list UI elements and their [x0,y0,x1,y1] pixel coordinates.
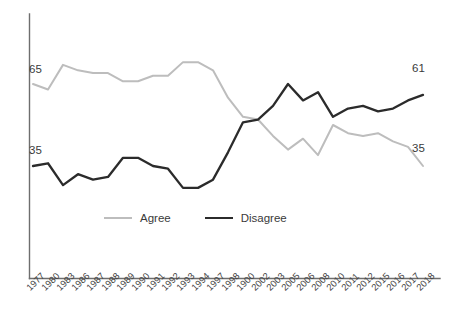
disagree-end-value-label: 61 [412,62,425,74]
disagree-start-value-label: 35 [29,144,42,156]
legend-item-agree[interactable]: Agree [104,212,171,224]
legend-label-disagree: Disagree [241,212,287,224]
chart-legend: Agree Disagree [104,212,287,224]
legend-swatch-agree [104,217,132,219]
legend-label-agree: Agree [140,212,171,224]
line-chart: 65 35 61 35 Agree Disagree 1977198019831… [0,0,451,324]
legend-item-disagree[interactable]: Disagree [205,212,287,224]
legend-swatch-disagree [205,217,233,219]
agree-start-value-label: 65 [29,63,42,75]
x-axis-tick-labels: 1977198019831986198719881989199019911992… [0,281,451,324]
agree-end-value-label: 35 [412,142,425,154]
